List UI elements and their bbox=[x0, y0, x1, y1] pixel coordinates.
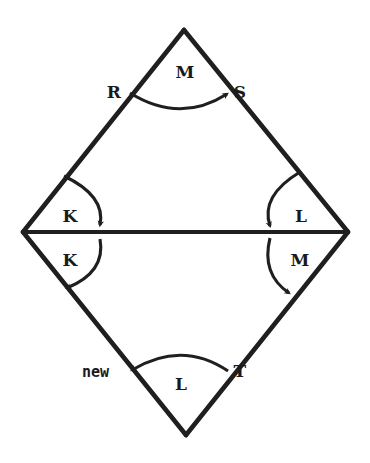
arc-path-right-lower bbox=[268, 238, 289, 293]
angle-label-bottom-L: L bbox=[175, 374, 187, 394]
arc-path-top bbox=[130, 93, 227, 109]
angle-label-group: M K K L M L bbox=[63, 62, 310, 394]
arc-path-bottom bbox=[132, 355, 228, 371]
vertex-label-new: new bbox=[82, 363, 110, 381]
rhombus-angle-diagram: R S new T M K K L M L bbox=[0, 0, 370, 463]
edge-top-left bbox=[23, 30, 184, 232]
edge-bottom-left bbox=[23, 232, 186, 435]
edge-top-right bbox=[184, 30, 348, 232]
vertex-label-T: T bbox=[234, 361, 247, 381]
angle-label-left-upper-K: K bbox=[63, 206, 79, 226]
angle-label-right-upper-L: L bbox=[295, 206, 307, 226]
diagram-canvas: R S new T M K K L M L bbox=[0, 0, 370, 463]
arc-top-M bbox=[130, 93, 227, 109]
angle-label-top-M: M bbox=[175, 62, 194, 82]
angle-label-left-lower-K: K bbox=[63, 250, 79, 270]
vertex-label-S: S bbox=[234, 82, 246, 102]
angle-label-right-lower-M: M bbox=[290, 250, 309, 270]
arc-bottom-L bbox=[132, 355, 228, 371]
vertex-label-R: R bbox=[107, 82, 122, 102]
arc-right-lower-M bbox=[268, 238, 289, 293]
